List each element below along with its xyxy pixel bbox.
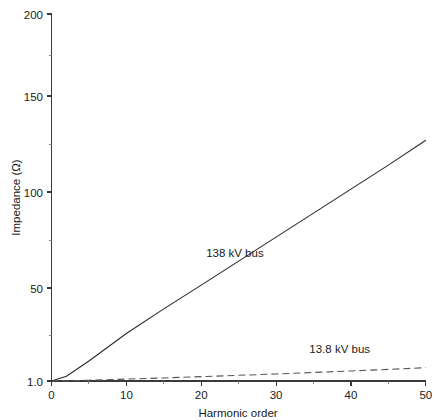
x-tick-label-0: 0: [48, 389, 54, 401]
y-axis-title: Impedance (Ω): [10, 159, 22, 236]
y-axis-major-ticks: [47, 14, 52, 381]
y-axis-tick-labels: 200 150 100 50 1.0: [24, 9, 43, 388]
impedance-vs-harmonic-order-chart: 200 150 100 50 1.0 0 10 20 30 40 50 Impe…: [0, 0, 437, 420]
y-tick-label-50: 50: [30, 283, 43, 295]
series-label-138kv-bus: 138 kV bus: [206, 247, 264, 259]
x-tick-label-30: 30: [270, 389, 283, 401]
axis-lines: [52, 14, 427, 381]
x-tick-label-10: 10: [120, 389, 133, 401]
y-tick-label-1: 1.0: [27, 376, 43, 388]
chart-figure: 200 150 100 50 1.0 0 10 20 30 40 50 Impe…: [0, 0, 437, 420]
series-annotations: 138 kV bus 13.8 kV bus: [206, 247, 370, 355]
series-line-13-8kv-bus: [52, 368, 426, 381]
x-tick-label-50: 50: [419, 389, 432, 401]
y-tick-label-100: 100: [24, 187, 43, 199]
x-tick-label-20: 20: [195, 389, 208, 401]
series-label-13-8kv-bus: 13.8 kV bus: [309, 343, 370, 355]
x-axis-tick-labels: 0 10 20 30 40 50: [48, 389, 432, 401]
y-tick-label-200: 200: [24, 9, 43, 21]
x-axis-title: Harmonic order: [198, 407, 277, 419]
x-tick-label-40: 40: [345, 389, 358, 401]
y-tick-label-150: 150: [24, 91, 43, 103]
